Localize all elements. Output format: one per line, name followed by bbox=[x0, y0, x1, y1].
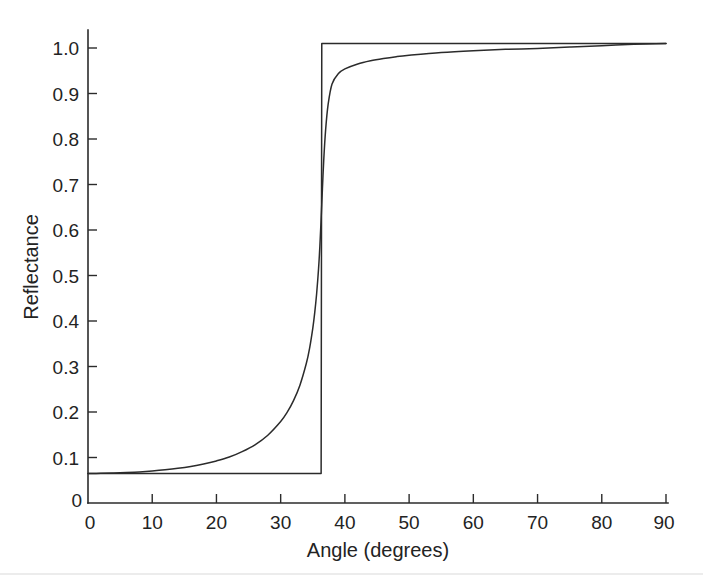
y-tick-label: 1.0 bbox=[53, 38, 79, 59]
y-tick-label: 0.9 bbox=[53, 84, 79, 105]
y-tick-label: 0.7 bbox=[53, 175, 79, 196]
x-tick-label: 90 bbox=[653, 512, 674, 533]
x-tick-label: 70 bbox=[527, 512, 548, 533]
y-tick-label: 0.8 bbox=[53, 129, 79, 150]
y-tick-label: 0.3 bbox=[53, 357, 79, 378]
x-tick-label: 80 bbox=[591, 512, 612, 533]
x-tick-label: 10 bbox=[142, 512, 163, 533]
y-tick-label: 0 bbox=[71, 490, 82, 511]
x-tick-label: 40 bbox=[334, 512, 355, 533]
y-tick-label: 0.2 bbox=[53, 402, 79, 423]
y-tick-label: 0.1 bbox=[53, 448, 79, 469]
x-tick-label: 20 bbox=[206, 512, 227, 533]
x-tick-label: 50 bbox=[399, 512, 420, 533]
x-tick-label: 0 bbox=[85, 512, 96, 533]
y-axis-title: Reflectance bbox=[20, 214, 42, 320]
y-tick-label: 0.4 bbox=[53, 311, 80, 332]
figure-container: 00.10.20.30.40.50.60.70.80.91.0 01020304… bbox=[0, 0, 703, 576]
x-tick-label: 60 bbox=[463, 512, 484, 533]
y-tick-label: 0.5 bbox=[53, 266, 79, 287]
x-tick-label: 30 bbox=[270, 512, 291, 533]
reflectance-vs-angle-chart: 00.10.20.30.40.50.60.70.80.91.0 01020304… bbox=[0, 0, 703, 576]
y-tick-label: 0.6 bbox=[53, 220, 79, 241]
chart-background bbox=[0, 0, 703, 576]
x-axis-title: Angle (degrees) bbox=[307, 539, 449, 561]
